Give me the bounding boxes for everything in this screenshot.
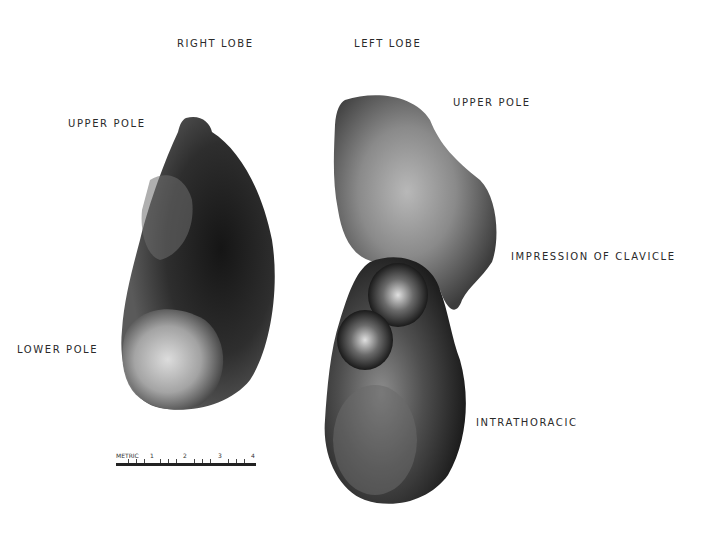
- left-lobe-label: LEFT LOBE: [354, 38, 421, 49]
- right-lobe-label: RIGHT LOBE: [177, 38, 254, 49]
- specimen-photo: [0, 0, 712, 533]
- scale-unit-label: METRIC: [116, 452, 139, 459]
- scale-mark-4: 4: [251, 452, 255, 459]
- metric-scale-bar: METRIC 1 2 3 4: [116, 452, 256, 472]
- lower-pole-label: LOWER POLE: [17, 344, 98, 355]
- left-upper-pole-label: UPPER POLE: [453, 97, 531, 108]
- scale-mark-3: 3: [218, 452, 222, 459]
- scale-mark-1: 1: [150, 452, 154, 459]
- right-lobe-specimen: [121, 117, 274, 410]
- left-lobe-specimen: [325, 95, 497, 504]
- impression-of-clavicle-label: IMPRESSION OF CLAVICLE: [511, 251, 676, 262]
- right-upper-pole-label: UPPER POLE: [68, 118, 146, 129]
- scale-mark-2: 2: [183, 452, 187, 459]
- intrathoracic-label: INTRATHORACIC: [476, 417, 578, 428]
- scale-bar-line: [116, 463, 256, 466]
